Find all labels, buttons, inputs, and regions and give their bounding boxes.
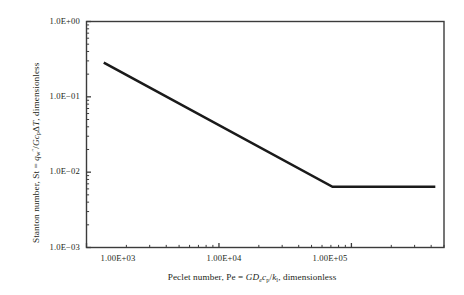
plot-area	[0, 0, 464, 295]
series-line-0	[104, 63, 436, 187]
data-series	[104, 63, 436, 187]
axes-frame	[87, 22, 445, 248]
plot-frame	[87, 22, 445, 248]
axis-ticks	[87, 22, 445, 248]
figure-container: Stanton number, St = qw″/GcpΔT, dimensio…	[0, 0, 464, 295]
